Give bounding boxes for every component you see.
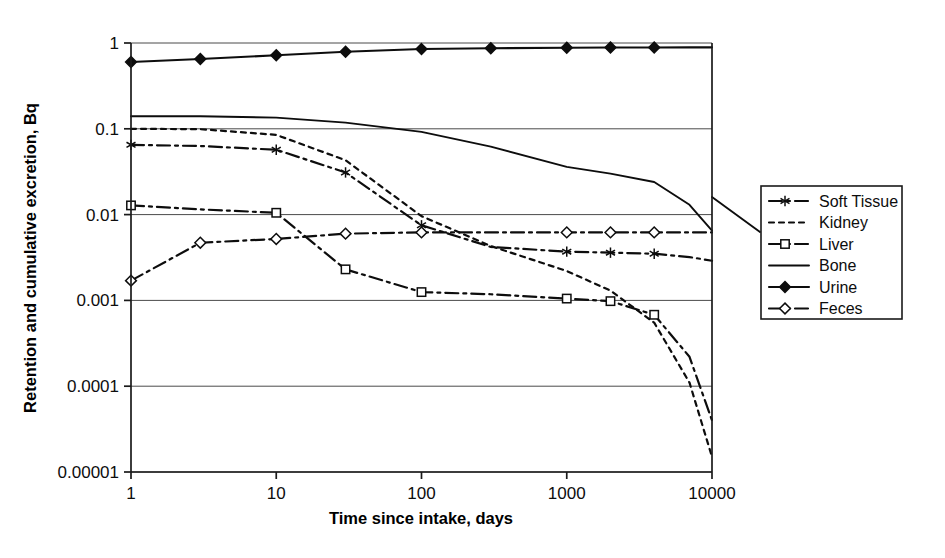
chart-canvas: 10.10.010.0010.00010.0000111010010001000… bbox=[0, 0, 945, 558]
y-tick-label: 1 bbox=[110, 34, 119, 53]
legend-item-label: Feces bbox=[819, 300, 863, 317]
legend-item-label: Soft Tissue bbox=[819, 193, 898, 210]
y-tick-label: 0.00001 bbox=[58, 463, 119, 482]
x-tick-label: 10 bbox=[267, 484, 286, 503]
data-point-marker bbox=[781, 240, 789, 248]
data-point-marker bbox=[272, 209, 280, 217]
x-tick-label: 1000 bbox=[548, 484, 586, 503]
y-tick-label: 0.01 bbox=[86, 206, 119, 225]
chart-figure: 10.10.010.0010.00010.0000111010010001000… bbox=[0, 0, 945, 558]
y-tick-label: 0.1 bbox=[95, 120, 119, 139]
x-tick-label: 10000 bbox=[688, 484, 735, 503]
x-tick-label: 1 bbox=[126, 484, 135, 503]
legend-item-label: Liver bbox=[819, 236, 854, 253]
y-tick-label: 0.001 bbox=[76, 291, 119, 310]
data-point-marker bbox=[341, 265, 349, 273]
legend-item-label: Urine bbox=[819, 279, 857, 296]
x-tick-label: 100 bbox=[407, 484, 435, 503]
data-point-marker bbox=[606, 297, 614, 305]
legend-item-label: Bone bbox=[819, 257, 856, 274]
legend-item-label: Kidney bbox=[819, 214, 868, 231]
data-point-marker bbox=[650, 311, 658, 319]
chart-legend[interactable]: Soft TissueKidneyLiverBoneUrineFeces bbox=[761, 186, 902, 319]
y-axis-title: Retention and cumulative excretion, Bq bbox=[21, 103, 39, 413]
x-axis-title: Time since intake, days bbox=[329, 509, 513, 527]
data-point-marker bbox=[417, 288, 425, 296]
data-point-marker bbox=[563, 294, 571, 302]
y-tick-label: 0.0001 bbox=[67, 377, 119, 396]
